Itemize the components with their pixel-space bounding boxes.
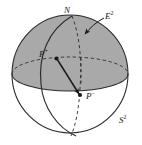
label-north-pole: N	[64, 6, 70, 15]
label-point-P-minus: P−	[86, 92, 95, 101]
point-P-plus-dot	[54, 56, 58, 60]
label-sphere-S2: S2	[119, 116, 127, 125]
label-point-P-plus: P+	[39, 50, 48, 59]
point-P-minus-dot	[78, 93, 82, 97]
sphere-figure: N E2 P+ P− S2	[0, 0, 142, 145]
label-plane-E2: E2	[105, 12, 114, 21]
